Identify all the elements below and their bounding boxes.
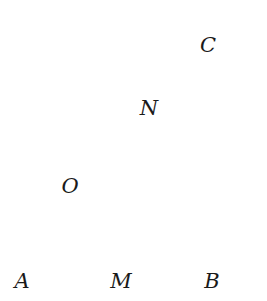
vertex-label-o: O <box>61 176 78 197</box>
cube-diagram <box>0 0 267 301</box>
vertex-label-a: A <box>14 271 29 292</box>
vertex-label-m: M <box>110 271 132 292</box>
vertex-label-b: B <box>204 271 219 292</box>
vertex-label-n: N <box>140 98 158 119</box>
vertex-label-c: C <box>200 35 216 56</box>
geometry-figure: A M B O N C <box>0 0 267 301</box>
